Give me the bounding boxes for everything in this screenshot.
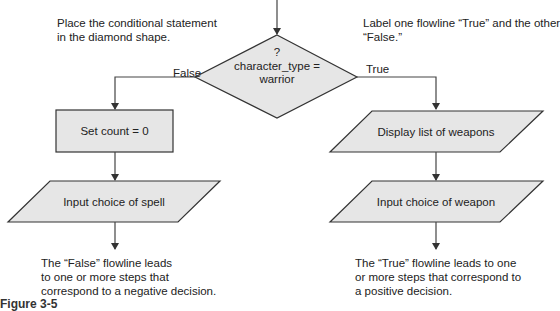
figure-caption: Figure 3-5	[0, 297, 57, 311]
note-line: Label one flowline “True” and the other	[363, 16, 560, 30]
note-diamond-instruction: Place the conditional statement in the d…	[57, 16, 217, 44]
note-line: a positive decision.	[355, 284, 521, 298]
note-line: Place the conditional statement	[57, 16, 217, 30]
decision-text: ? character_type = warrior	[207, 46, 347, 87]
decision-question-mark: ?	[207, 46, 347, 60]
false-label: False	[173, 66, 201, 80]
process-label: Set count = 0	[56, 124, 173, 138]
note-line: in the diamond shape.	[57, 30, 217, 44]
decision-condition: character_type =	[207, 60, 347, 74]
input-spell-label: Input choice of spell	[14, 195, 214, 209]
output-weapons-label: Display list of weapons	[336, 125, 536, 139]
input-weapon-label: Input choice of weapon	[336, 195, 536, 209]
false-flowline	[115, 77, 195, 109]
note-line: or more steps that correspond to	[355, 270, 521, 284]
note-true-explanation: The “True” flowline leads to one or more…	[355, 256, 521, 298]
note-line: The “True” flowline leads to one	[355, 256, 521, 270]
note-false-explanation: The “False” flowline leads to one or mor…	[41, 256, 216, 298]
true-label: True	[366, 62, 389, 76]
true-flowline	[357, 77, 436, 109]
note-line: correspond to a negative decision.	[41, 284, 216, 298]
note-line: to one or more steps that	[41, 270, 216, 284]
note-line: The “False” flowline leads	[41, 256, 216, 270]
note-label-instruction: Label one flowline “True” and the other …	[363, 16, 560, 44]
decision-value: warrior	[207, 73, 347, 87]
note-line: “False.”	[363, 30, 560, 44]
